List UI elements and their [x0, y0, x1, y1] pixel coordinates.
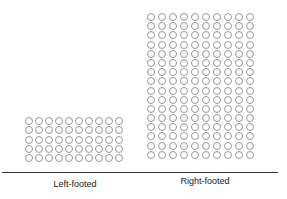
unit-circle — [191, 68, 199, 76]
unit-circle — [95, 117, 103, 125]
unit-circle — [169, 59, 177, 67]
unit-circle — [158, 151, 166, 159]
unit-circle — [75, 136, 83, 144]
unit-circle — [235, 68, 243, 76]
unit-circle — [202, 59, 210, 67]
unit-circle — [235, 114, 243, 122]
unit-circle — [169, 114, 177, 122]
unit-circle — [75, 126, 83, 134]
unit-circle — [95, 154, 103, 162]
unit-circle — [246, 105, 254, 113]
unit-circle — [147, 31, 155, 39]
unit-circle — [202, 87, 210, 95]
unit-circle — [105, 117, 113, 125]
unit-circle — [158, 96, 166, 104]
unit-circle — [191, 22, 199, 30]
unit-circle — [246, 77, 254, 85]
unit-circle — [25, 145, 33, 153]
unit-circle — [213, 13, 221, 21]
unit-circle — [224, 96, 232, 104]
unit-circle — [158, 142, 166, 150]
unit-circle — [246, 31, 254, 39]
unit-circle — [180, 87, 188, 95]
unit-circle — [235, 50, 243, 58]
unit-circle — [180, 105, 188, 113]
unit-circle — [169, 13, 177, 21]
unit-circle — [95, 145, 103, 153]
unit-circle — [85, 117, 93, 125]
unit-circle — [75, 145, 83, 153]
unit-circle — [45, 145, 53, 153]
unit-circle — [45, 136, 53, 144]
unit-circle — [169, 123, 177, 131]
unit-circle — [147, 123, 155, 131]
unit-circle — [115, 136, 123, 144]
unit-circle — [169, 68, 177, 76]
unit-circle — [158, 132, 166, 140]
unit-circle — [235, 41, 243, 49]
unit-circle — [147, 59, 155, 67]
unit-circle — [55, 117, 63, 125]
unit-circle — [224, 77, 232, 85]
category-label-right-footed: Right-footed — [180, 176, 229, 186]
unit-circle — [213, 151, 221, 159]
unit-circle — [35, 145, 43, 153]
unit-circle — [202, 68, 210, 76]
unit-circle — [105, 145, 113, 153]
unit-circle — [235, 87, 243, 95]
unit-circle — [55, 145, 63, 153]
unit-circle — [25, 117, 33, 125]
unit-circle — [35, 126, 43, 134]
unit-circle — [202, 123, 210, 131]
unit-circle — [147, 96, 155, 104]
unit-circle — [191, 41, 199, 49]
unit-circle — [45, 117, 53, 125]
unit-circle — [202, 50, 210, 58]
unit-circle — [191, 13, 199, 21]
unit-circle — [213, 142, 221, 150]
unit-circle — [224, 142, 232, 150]
unit-circle — [147, 22, 155, 30]
unit-circle — [158, 68, 166, 76]
unit-circle — [213, 68, 221, 76]
unit-circle — [169, 31, 177, 39]
unit-circle — [246, 13, 254, 21]
unit-circle — [191, 50, 199, 58]
unit-circle — [191, 31, 199, 39]
unit-circle — [202, 13, 210, 21]
unit-circle — [180, 96, 188, 104]
unit-circle — [147, 132, 155, 140]
unit-circle — [115, 145, 123, 153]
unit-circle — [202, 142, 210, 150]
unit-circle — [224, 68, 232, 76]
unit-circle — [191, 87, 199, 95]
unit-circle — [158, 114, 166, 122]
unit-circle — [180, 142, 188, 150]
unit-circle — [147, 142, 155, 150]
unit-circle — [147, 77, 155, 85]
unit-circle — [65, 154, 73, 162]
unit-circle — [235, 96, 243, 104]
unit-circle — [213, 132, 221, 140]
unit-circle — [180, 68, 188, 76]
unit-circle — [224, 22, 232, 30]
unit-circle — [213, 105, 221, 113]
unit-circle — [65, 126, 73, 134]
unit-circle — [191, 77, 199, 85]
unit-circle — [180, 59, 188, 67]
unit-circle — [105, 154, 113, 162]
unit-circle — [191, 142, 199, 150]
unit-circle — [158, 13, 166, 21]
unit-circle — [235, 151, 243, 159]
unit-circle — [235, 31, 243, 39]
unit-circle — [169, 77, 177, 85]
unit-circle — [191, 105, 199, 113]
unit-circle — [235, 13, 243, 21]
unit-circle — [147, 68, 155, 76]
unit-circle — [180, 151, 188, 159]
unit-circle — [235, 142, 243, 150]
unit-circle — [246, 151, 254, 159]
unit-circle — [213, 50, 221, 58]
unit-circle — [202, 96, 210, 104]
unit-circle — [246, 132, 254, 140]
